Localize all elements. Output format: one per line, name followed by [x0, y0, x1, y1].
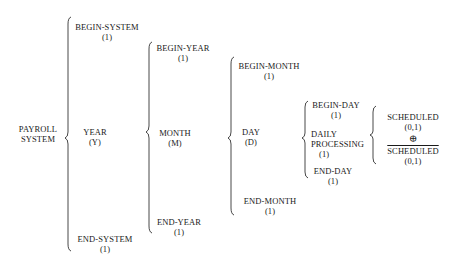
brace-day — [302, 101, 308, 178]
node-name: SCHEDULED — [380, 146, 446, 156]
node-begin-year: BEGIN-YEAR (1) — [153, 43, 213, 63]
node-month: MONTH (M) — [153, 128, 197, 148]
node-name: MONTH — [153, 128, 197, 138]
node-end-system: END-SYSTEM (1) — [72, 234, 138, 254]
node-end-year: END-YEAR (1) — [153, 217, 205, 237]
node-name: BEGIN-YEAR — [153, 43, 213, 53]
node-rep: (0,1) — [380, 156, 446, 166]
node-end-month: END-MONTH (1) — [240, 196, 300, 216]
node-day: DAY (D) — [236, 127, 266, 147]
node-rep: (1) — [72, 32, 142, 42]
node-name: BEGIN-DAY — [311, 100, 361, 110]
node-begin-day: BEGIN-DAY (1) — [311, 100, 361, 120]
node-name: SCHEDULED — [380, 112, 446, 122]
node-begin-month: BEGIN-MONTH (1) — [236, 61, 302, 81]
node-rep: (0,1) — [380, 122, 446, 132]
root-label-line1: PAYROLL — [13, 124, 63, 134]
node-rep: (1) — [311, 110, 361, 120]
node-rep: (1) — [240, 206, 300, 216]
brace-year — [146, 42, 152, 233]
node-rep: (1) — [153, 53, 213, 63]
node-name-line2: PROCESSING — [311, 139, 373, 149]
node-begin-system: BEGIN-SYSTEM (1) — [72, 22, 142, 42]
node-rep: (1) — [153, 227, 205, 237]
node-name: END-MONTH — [240, 196, 300, 206]
node-scheduled: SCHEDULED (0,1) — [380, 112, 446, 132]
exclusive-or-operator: ⊕ — [380, 134, 446, 144]
node-name: END-SYSTEM — [72, 234, 138, 244]
node-name: BEGIN-MONTH — [236, 61, 302, 71]
node-rep: (1) — [311, 149, 373, 159]
node-year: YEAR (Y) — [72, 127, 118, 147]
root-node: PAYROLL SYSTEM — [13, 124, 63, 144]
node-daily-processing: DAILY PROCESSING (1) — [311, 129, 373, 159]
node-end-day: END-DAY (1) — [311, 166, 355, 186]
root-label-line2: SYSTEM — [13, 134, 63, 144]
node-not-scheduled: SCHEDULED (0,1) — [380, 146, 446, 166]
brace-month — [228, 57, 234, 215]
node-name: DAY — [236, 127, 266, 137]
node-name-line1: DAILY — [311, 129, 373, 139]
node-rep: (D) — [236, 137, 266, 147]
node-rep: (1) — [236, 71, 302, 81]
node-name: BEGIN-SYSTEM — [72, 22, 142, 32]
brace-lines — [0, 0, 460, 266]
node-rep: (M) — [153, 138, 197, 148]
node-name: YEAR — [72, 127, 118, 137]
node-rep: (Y) — [72, 137, 118, 147]
node-name: END-DAY — [311, 166, 355, 176]
xor-icon: ⊕ — [409, 133, 417, 144]
node-name: END-YEAR — [153, 217, 205, 227]
brace-system — [65, 17, 71, 251]
node-rep: (1) — [311, 176, 355, 186]
node-rep: (1) — [72, 244, 138, 254]
